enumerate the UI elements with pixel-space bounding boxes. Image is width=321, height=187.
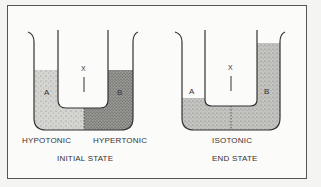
isotonic-label: ISOTONIC [212, 136, 252, 145]
arm-label-a-end: A [189, 87, 195, 96]
arm-label-b-initial: B [117, 88, 123, 97]
end-state-caption: END STATE [212, 154, 258, 163]
end-state-tube [175, 30, 285, 130]
hypertonic-label: HYPERTONIC [93, 136, 147, 145]
hypotonic-label: HYPOTONIC [22, 136, 71, 145]
arm-label-b-end: B [264, 87, 270, 96]
initial-state-caption: INITIAL STATE [57, 154, 113, 163]
arm-label-a-initial: A [44, 88, 50, 97]
initial-state-tube [28, 30, 138, 130]
membrane-label-initial: X [81, 65, 86, 72]
membrane-label-end: X [228, 64, 233, 71]
